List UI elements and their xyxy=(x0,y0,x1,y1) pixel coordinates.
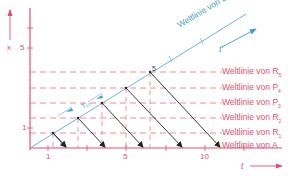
y-tick-5: 5 xyxy=(20,44,24,52)
worldline-P3-sub: 3 xyxy=(278,103,281,109)
worldline-R1-label: Weltlinie von R1 xyxy=(222,128,281,139)
worldline-R5-text: Weltlinie von R xyxy=(222,66,279,76)
x-tick-10: 10 xyxy=(200,153,209,161)
worldline-P4-label: Weltlinie von P4 xyxy=(222,83,281,94)
worldline-P4-sub: 4 xyxy=(278,88,281,94)
worldline-P3-label: Weltlinie von P3 xyxy=(222,98,281,109)
t-axis-label: t xyxy=(241,162,243,171)
worldline-A-label: Weltlinie von A xyxy=(222,141,278,150)
worldline-R2-text: Weltlinie von R xyxy=(222,112,279,122)
worldline-R2-label: Weltlinie von R2 xyxy=(222,113,281,124)
y-tick-1: 1 xyxy=(22,124,26,132)
t-prime-axis-label: t' xyxy=(219,45,223,54)
dashed-worldlines xyxy=(30,72,222,133)
worldline-B xyxy=(30,14,246,148)
x-tick-1: 1 xyxy=(46,153,50,161)
worldline-P3-text: Weltlinie von P xyxy=(222,97,278,107)
worldline-R5-sub: 5 xyxy=(279,72,282,78)
worldline-R1-text: Weltlinie von R xyxy=(222,127,279,137)
worldline-R5-label: Weltlinie von R5 xyxy=(222,67,281,78)
point-label: 5 xyxy=(152,65,156,72)
worldline-R2-sub: 2 xyxy=(279,118,282,124)
worldline-P4-text: Weltlinie von P xyxy=(222,82,278,92)
signal-arrows xyxy=(53,72,220,147)
x-tick-5: 5 xyxy=(123,153,127,161)
t-prime-direction-arrow xyxy=(222,29,256,47)
x-axis-label: x xyxy=(7,44,11,52)
worldline-R1-sub: 1 xyxy=(279,133,282,139)
